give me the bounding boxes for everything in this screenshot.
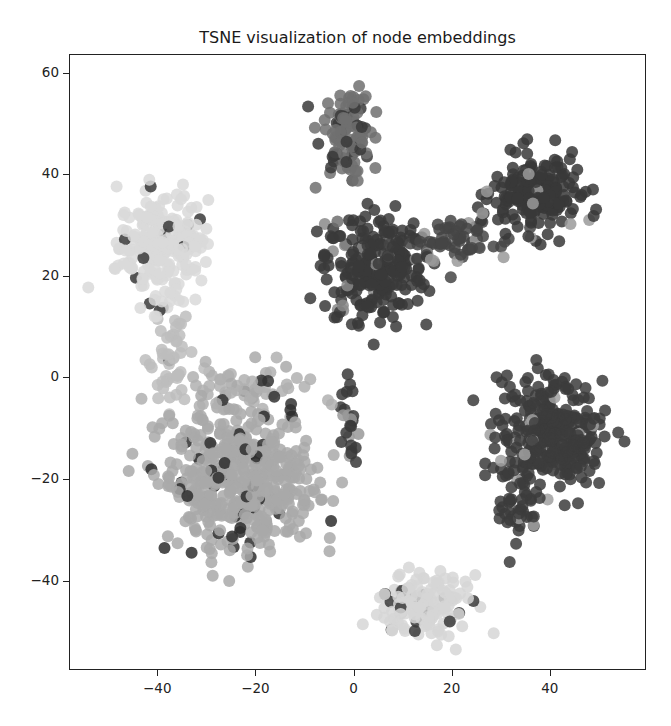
data-point [533, 217, 545, 229]
data-point [189, 293, 201, 305]
data-point [157, 382, 169, 394]
data-point [119, 245, 131, 257]
data-point [559, 469, 571, 481]
data-point [488, 627, 500, 639]
data-point [324, 532, 336, 544]
data-point [584, 419, 596, 431]
data-point [546, 447, 558, 459]
data-point [175, 193, 187, 205]
data-point [504, 556, 516, 568]
data-point [239, 508, 251, 520]
data-point [171, 370, 183, 382]
data-point [387, 241, 399, 253]
data-point [268, 391, 280, 403]
data-point [364, 248, 376, 260]
data-point [226, 469, 238, 481]
data-point [521, 148, 533, 160]
data-point [554, 480, 566, 492]
y-tick [63, 479, 69, 480]
data-point [319, 114, 331, 126]
data-point [566, 146, 578, 158]
data-point [378, 612, 390, 624]
data-point [489, 443, 501, 455]
data-point [413, 263, 425, 275]
data-point [462, 592, 474, 604]
data-point [318, 262, 330, 274]
data-point [521, 133, 533, 145]
data-point [345, 420, 357, 432]
data-point [140, 354, 152, 366]
data-point [420, 319, 432, 331]
data-point [392, 591, 404, 603]
data-point [353, 80, 365, 92]
data-point [423, 611, 435, 623]
data-point [309, 122, 321, 134]
data-point [325, 162, 337, 174]
y-tick-label: 40 [19, 165, 59, 181]
data-point [181, 490, 193, 502]
data-point [426, 627, 438, 639]
data-point [357, 618, 369, 630]
data-point [389, 200, 401, 212]
data-point [553, 235, 565, 247]
data-point [289, 416, 301, 428]
data-point [153, 254, 165, 266]
data-point [418, 278, 430, 290]
data-point [565, 218, 577, 230]
data-point [293, 460, 305, 472]
data-point [141, 211, 153, 223]
data-point [374, 316, 386, 328]
data-point [294, 485, 306, 497]
data-point [513, 525, 525, 537]
plot-area [69, 54, 646, 670]
data-point [245, 526, 257, 538]
data-point [246, 443, 258, 455]
data-point [504, 514, 516, 526]
chart-title: TSNE visualization of node embeddings [69, 28, 646, 47]
data-point [325, 515, 337, 527]
data-point [431, 639, 443, 651]
data-point [599, 405, 611, 417]
data-point [343, 214, 355, 226]
data-point [331, 216, 343, 228]
data-point [302, 101, 314, 113]
x-tick [157, 670, 158, 676]
data-point [138, 236, 150, 248]
data-point [521, 511, 533, 523]
x-tick-label: −40 [137, 680, 177, 696]
data-point [474, 242, 486, 254]
data-point [308, 483, 320, 495]
data-point [202, 516, 214, 528]
data-point [310, 182, 322, 194]
data-point [224, 511, 236, 523]
data-point [375, 268, 387, 280]
data-point [567, 203, 579, 215]
data-point [202, 194, 214, 206]
data-point [535, 239, 547, 251]
data-point [587, 184, 599, 196]
data-point [504, 144, 516, 156]
data-point [187, 371, 199, 383]
data-point [560, 404, 572, 416]
data-point [207, 447, 219, 459]
data-point [191, 201, 203, 213]
data-point [177, 178, 189, 190]
data-point [500, 228, 512, 240]
data-point [542, 228, 554, 240]
data-point [493, 504, 505, 516]
data-point [190, 525, 202, 537]
data-point [171, 458, 183, 470]
data-point [402, 582, 414, 594]
data-point [201, 528, 213, 540]
data-point [514, 435, 526, 447]
data-point [161, 349, 173, 361]
data-point [488, 241, 500, 253]
data-point [156, 417, 168, 429]
data-point [242, 542, 254, 554]
data-point [246, 376, 258, 388]
data-point [369, 162, 381, 174]
data-point [149, 431, 161, 443]
data-point [455, 218, 467, 230]
data-point [207, 570, 219, 582]
data-point [456, 620, 468, 632]
